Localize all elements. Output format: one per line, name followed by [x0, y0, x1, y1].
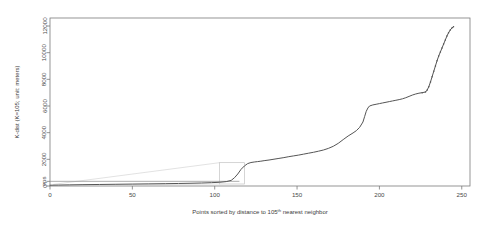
data-point — [426, 89, 428, 91]
y-tick-label: 6000 — [41, 99, 48, 113]
x-title-tail: nearest neighbor — [281, 209, 328, 215]
data-point — [453, 26, 455, 28]
data-point — [443, 43, 445, 45]
x-tick-label: 250 — [457, 191, 468, 198]
y-tick-label: eps — [41, 176, 48, 186]
data-point — [448, 32, 450, 34]
data-point — [449, 29, 451, 31]
data-point — [436, 60, 438, 62]
x-title-base: Points sorted by distance to 105 — [192, 209, 278, 215]
y-tick-label: 8000 — [41, 72, 48, 86]
data-point — [421, 92, 423, 94]
data-point — [433, 71, 435, 73]
y-axis-title-text: K-dist (K=105; unit: meters) — [14, 65, 20, 138]
y-tick-label: 4000 — [41, 125, 48, 139]
y-tick-label: 12000 — [41, 17, 48, 35]
x-tick-label: 200 — [374, 191, 385, 198]
y-tick-label: 2000 — [41, 152, 48, 166]
chart-container: 0eps20004000600080001000012000 050100150… — [0, 0, 490, 234]
data-point — [425, 91, 427, 93]
x-axis-title-text: Points sorted by distance to 105th neare… — [192, 208, 328, 215]
x-tick-label: 100 — [210, 191, 221, 198]
y-axis-title: K-dist (K=105; unit: meters) — [14, 65, 20, 138]
x-tick-label: 0 — [48, 191, 52, 198]
data-point — [435, 65, 437, 67]
y-tick-label: 10000 — [41, 44, 48, 62]
kdist-plot: 0eps20004000600080001000012000 050100150… — [0, 0, 490, 234]
x-axis-title: Points sorted by distance to 105th neare… — [192, 208, 328, 215]
data-point — [440, 51, 442, 53]
data-point — [441, 47, 443, 49]
data-point — [446, 35, 448, 37]
data-point — [451, 27, 453, 29]
data-point — [438, 55, 440, 57]
data-point — [430, 81, 432, 83]
plot-background — [0, 0, 490, 234]
data-point — [431, 76, 433, 78]
data-point — [428, 86, 430, 88]
x-tick-label: 150 — [292, 191, 303, 198]
x-tick-label: 50 — [129, 191, 136, 198]
data-point — [445, 39, 447, 41]
